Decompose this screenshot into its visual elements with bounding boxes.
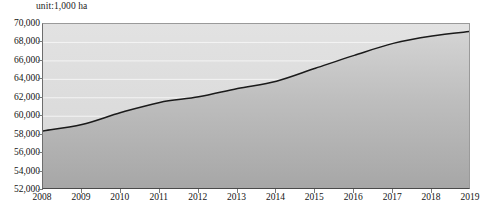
y-axis-tickmark — [38, 134, 43, 135]
y-axis-tick-label: 60,000 — [0, 110, 40, 120]
x-axis-tick-label: 2010 — [103, 192, 137, 203]
x-axis-tick-label: 2012 — [181, 192, 215, 203]
x-axis-tick-label: 2008 — [25, 192, 59, 203]
y-axis-tick-label: 70,000 — [0, 18, 40, 28]
x-axis-tickmark — [353, 189, 354, 193]
x-axis-tick-label: 2014 — [258, 192, 292, 203]
x-axis-tick-label: 2018 — [414, 192, 448, 203]
x-axis-tickmark — [237, 189, 238, 193]
x-axis-tick-label: 2017 — [375, 192, 409, 203]
y-axis-tickmark — [38, 152, 43, 153]
y-axis-tickmark — [38, 41, 43, 42]
y-axis-tickmark — [38, 115, 43, 116]
y-axis-tickmark — [38, 171, 43, 172]
x-axis-tickmark — [392, 189, 393, 193]
x-axis-tick-label: 2009 — [64, 192, 98, 203]
x-axis-tick-label: 2011 — [142, 192, 176, 203]
y-axis: 70,00068,00066,00064,00062,00060,00058,0… — [0, 0, 40, 212]
y-axis-tickmark — [38, 97, 43, 98]
chart-plot-svg — [43, 24, 470, 189]
plot-area — [42, 23, 470, 189]
x-axis-tick-label: 2016 — [336, 192, 370, 203]
y-axis-tick-label: 58,000 — [0, 129, 40, 139]
y-axis-tick-label: 54,000 — [0, 166, 40, 176]
y-axis-tick-label: 64,000 — [0, 73, 40, 83]
y-axis-tickmark — [38, 189, 43, 190]
x-axis-tickmark — [198, 189, 199, 193]
y-axis-tick-label: 68,000 — [0, 36, 40, 46]
x-axis-tickmark — [159, 189, 160, 193]
y-axis-tick-label: 66,000 — [0, 55, 40, 65]
y-axis-tickmark — [38, 78, 43, 79]
x-axis-tick-label: 2013 — [220, 192, 254, 203]
y-axis-tick-label: 56,000 — [0, 147, 40, 157]
x-axis-tickmark — [275, 189, 276, 193]
chart-unit-label: unit:1,000 ha — [36, 1, 87, 12]
x-axis-tickmark — [431, 189, 432, 193]
x-axis-tick-label: 2019 — [453, 192, 484, 203]
x-axis: 2008200920102011201220132014201520162017… — [0, 192, 475, 210]
x-axis-tickmark — [81, 189, 82, 193]
x-axis-tickmark — [120, 189, 121, 193]
y-axis-tick-label: 62,000 — [0, 92, 40, 102]
y-axis-tickmark — [38, 60, 43, 61]
x-axis-tickmark — [314, 189, 315, 193]
x-axis-tick-label: 2015 — [297, 192, 331, 203]
